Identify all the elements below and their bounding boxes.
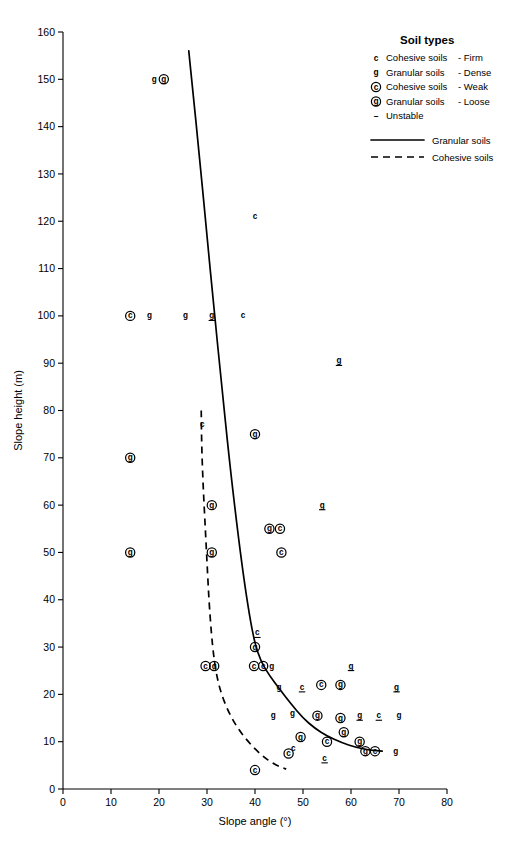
marker-glyph: g (152, 75, 157, 84)
data-point: g (393, 683, 399, 692)
data-points-layer: ggccgggcgcgggggcggccgcgccgggccgggggggcgg… (126, 75, 402, 775)
marker-glyph: c (319, 680, 324, 689)
marker-glyph: g (393, 747, 398, 756)
marker-glyph: g (128, 548, 133, 557)
marker-glyph: g (276, 683, 281, 692)
legend-entry: gGranular soils- Loose (371, 96, 489, 107)
y-tick-label: 60 (43, 499, 55, 511)
data-point: c (259, 661, 268, 670)
marker-glyph: g (394, 683, 399, 692)
data-point: c (254, 628, 260, 637)
marker-glyph: c (377, 711, 382, 720)
data-point: g (159, 75, 168, 84)
x-axis-title: Slope angle (°) (219, 815, 292, 827)
data-point: g (336, 680, 345, 689)
y-tick-label: 50 (43, 546, 55, 558)
marker-glyph: g (271, 711, 276, 720)
legend-entry-label: Cohesive soils (386, 81, 447, 92)
data-point: g (355, 737, 364, 746)
marker-glyph: g (161, 75, 166, 84)
marker-glyph: g (267, 524, 272, 533)
x-tick-label: 40 (249, 796, 261, 808)
marker-glyph: c (241, 311, 246, 320)
data-point: c (241, 311, 246, 320)
x-tick-label: 50 (297, 796, 309, 808)
marker-glyph: c (261, 662, 266, 671)
marker-glyph: c (253, 766, 258, 775)
data-point: g (269, 662, 274, 671)
marker-glyph: g (252, 643, 257, 652)
marker-glyph: g (183, 311, 188, 320)
data-point: c (201, 661, 210, 670)
marker-glyph: c (291, 744, 296, 753)
y-tick-label: 120 (37, 215, 55, 227)
y-tick-label: 40 (43, 593, 55, 605)
marker-glyph: g (298, 733, 303, 742)
marker-glyph: g (363, 747, 368, 756)
legend-marker-glyph: g (373, 96, 378, 106)
y-tick-label: 10 (43, 735, 55, 747)
legend-line-entry: Cohesive soils (371, 152, 493, 163)
legend-line-label: Cohesive soils (432, 152, 493, 163)
data-point: c (277, 548, 286, 557)
marker-glyph: g (341, 728, 346, 737)
marker-glyph: c (203, 662, 208, 671)
marker-glyph: g (315, 711, 320, 720)
x-tick-label: 0 (60, 796, 66, 808)
data-point: g (313, 711, 322, 720)
y-tick-label: 80 (43, 404, 55, 416)
legend-entry-label: Granular soils (386, 96, 445, 107)
y-tick-label: 150 (37, 73, 55, 85)
data-point: g (336, 713, 345, 722)
data-point: g (152, 75, 157, 84)
marker-glyph: g (290, 709, 295, 718)
data-point: g (319, 501, 325, 510)
data-point: g (126, 453, 135, 462)
y-tick-label: 0 (49, 783, 55, 795)
y-tick-label: 30 (43, 641, 55, 653)
legend: Soil typescCohesive soils- FirmgGranular… (371, 34, 493, 163)
data-point: g (296, 732, 305, 741)
legend-entry-label: Cohesive soils (386, 52, 447, 63)
marker-glyph: c (252, 662, 257, 671)
slope-stability-chart: 0102030405060708090100110120130140150160… (0, 0, 525, 843)
marker-glyph: g (269, 662, 274, 671)
data-point: g (336, 356, 342, 365)
legend-entry: –Unstable (374, 110, 424, 121)
data-point: c (200, 420, 205, 429)
legend-marker-glyph: g (373, 67, 378, 77)
marker-glyph: g (336, 356, 341, 365)
legend-entry-label: Unstable (386, 110, 424, 121)
x-tick-label: 80 (441, 796, 453, 808)
legend-marker-glyph: c (374, 53, 379, 63)
y-tick-label: 70 (43, 451, 55, 463)
data-point: g (207, 548, 216, 557)
legend-entry-qualifier: - Dense (458, 67, 491, 78)
y-tick-label: 20 (43, 688, 55, 700)
marker-glyph: g (320, 501, 325, 510)
y-tick-label: 160 (37, 26, 55, 38)
x-tick-label: 20 (153, 796, 165, 808)
marker-glyph: g (147, 311, 152, 320)
marker-glyph: c (325, 737, 330, 746)
marker-glyph: g (209, 501, 214, 510)
data-point: g (290, 709, 295, 718)
legend-line-label: Granular soils (432, 135, 491, 146)
data-point: c (299, 683, 305, 692)
data-point: c (291, 744, 296, 753)
data-point: g (265, 524, 274, 533)
y-tick-label: 140 (37, 120, 55, 132)
legend-entry-label: Granular soils (386, 67, 445, 78)
data-point: c (322, 737, 331, 746)
data-point: g (183, 311, 188, 320)
curve-granular-soils (189, 51, 382, 751)
legend-title: Soil types (400, 34, 454, 46)
data-point: c (275, 524, 284, 533)
data-point: g (356, 711, 362, 720)
marker-glyph: g (348, 662, 353, 671)
marker-glyph: g (212, 662, 217, 671)
marker-glyph: c (373, 747, 378, 756)
data-point: g (348, 662, 354, 671)
y-axis-title: Slope height (m) (12, 370, 24, 451)
legend-entry-qualifier: - Firm (458, 52, 483, 63)
